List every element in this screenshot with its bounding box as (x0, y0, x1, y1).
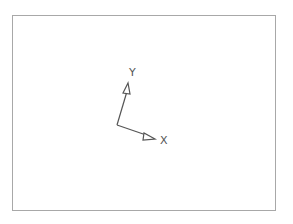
y-axis-label: Y (129, 67, 136, 78)
axes-gizmo (0, 0, 293, 224)
x-axis-arrowhead-icon (143, 133, 155, 140)
x-axis-label: X (160, 135, 168, 146)
y-axis-arrowhead-icon (123, 83, 130, 94)
